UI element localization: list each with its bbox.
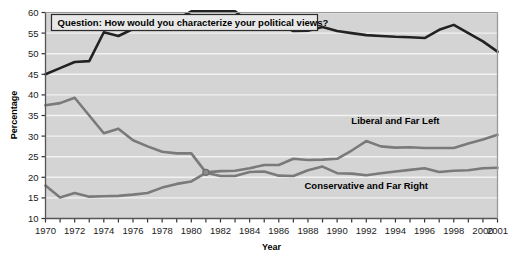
svg-text:20: 20 bbox=[28, 172, 39, 183]
svg-text:1972: 1972 bbox=[64, 225, 85, 236]
svg-text:1990: 1990 bbox=[327, 225, 348, 236]
svg-text:60: 60 bbox=[28, 7, 39, 18]
svg-text:25: 25 bbox=[28, 151, 39, 162]
svg-text:1976: 1976 bbox=[122, 225, 143, 236]
svg-text:1986: 1986 bbox=[268, 225, 289, 236]
svg-text:1988: 1988 bbox=[297, 225, 318, 236]
svg-text:50: 50 bbox=[28, 48, 39, 59]
svg-text:1978: 1978 bbox=[152, 225, 173, 236]
svg-text:1992: 1992 bbox=[356, 225, 377, 236]
chart-title: Question: How would you characterize you… bbox=[58, 17, 329, 28]
chart-canvas: 1015202530354045505560 19701972197419761… bbox=[0, 0, 514, 257]
svg-text:2001: 2001 bbox=[487, 225, 508, 236]
svg-text:55: 55 bbox=[28, 28, 39, 39]
svg-text:40: 40 bbox=[28, 89, 39, 100]
svg-text:1998: 1998 bbox=[443, 225, 464, 236]
svg-text:1980: 1980 bbox=[181, 225, 202, 236]
svg-text:1974: 1974 bbox=[93, 225, 114, 236]
series-label-liberal-and-far-left: Liberal and Far Left bbox=[351, 115, 440, 126]
svg-text:45: 45 bbox=[28, 69, 39, 80]
svg-text:1996: 1996 bbox=[414, 225, 435, 236]
svg-text:35: 35 bbox=[28, 110, 39, 121]
svg-text:1984: 1984 bbox=[239, 225, 260, 236]
svg-text:10: 10 bbox=[28, 213, 39, 224]
svg-text:30: 30 bbox=[28, 131, 39, 142]
svg-text:1970: 1970 bbox=[35, 225, 56, 236]
svg-text:1994: 1994 bbox=[385, 225, 406, 236]
svg-text:15: 15 bbox=[28, 192, 39, 203]
political-views-line-chart: 1015202530354045505560 19701972197419761… bbox=[0, 0, 514, 257]
svg-text:1982: 1982 bbox=[210, 225, 231, 236]
series-label-conservative-and-far-right: Conservative and Far Right bbox=[305, 180, 429, 191]
y-axis-title: Percentage bbox=[9, 91, 19, 140]
chart-title-box: Question: How would you characterize you… bbox=[52, 15, 329, 31]
x-axis-title: Year bbox=[262, 242, 282, 252]
